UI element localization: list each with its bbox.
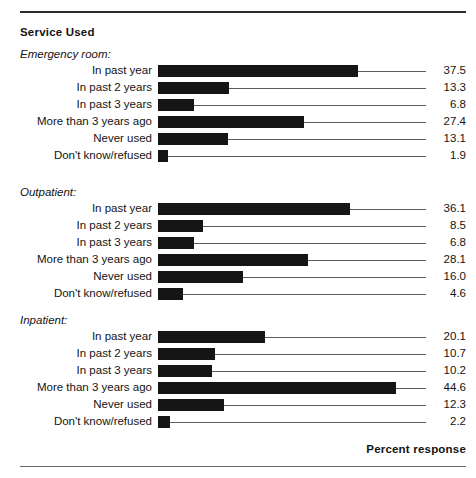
chart-row: In past 3 years10.2 (0, 363, 476, 380)
bar (158, 348, 215, 360)
row-category-label: Don't know/refused (0, 287, 152, 300)
chart-row: Don't know/refused2.2 (0, 414, 476, 431)
chart-row: In past year36.1 (0, 201, 476, 218)
bar-value-label: 16.0 (430, 270, 466, 283)
bar-track (158, 269, 426, 286)
row-category-label: In past year (0, 202, 152, 215)
bar-track (158, 148, 426, 165)
chart-row: In past 2 years8.5 (0, 218, 476, 235)
row-category-label: Don't know/refused (0, 415, 152, 428)
leader-line (158, 105, 426, 106)
row-category-label: Never used (0, 398, 152, 411)
page-title: Service Used (20, 26, 95, 38)
bar-track (158, 201, 426, 218)
bar (158, 150, 168, 162)
row-category-label: In past 2 years (0, 347, 152, 360)
bar (158, 365, 212, 377)
x-axis-title: Percent response (366, 443, 466, 455)
bar-track (158, 218, 426, 235)
row-category-label: More than 3 years ago (0, 381, 152, 394)
bar (158, 382, 396, 394)
bar-track (158, 380, 426, 397)
bar-value-label: 20.1 (430, 330, 466, 343)
bar-value-label: 13.3 (430, 81, 466, 94)
row-category-label: In past 3 years (0, 98, 152, 111)
bar-value-label: 44.6 (430, 381, 466, 394)
bar-track (158, 252, 426, 269)
top-divider-rule (20, 11, 466, 13)
bar-track (158, 346, 426, 363)
chart-row: More than 3 years ago44.6 (0, 380, 476, 397)
chart-row: Don't know/refused4.6 (0, 286, 476, 303)
bar-track (158, 80, 426, 97)
chart-row: In past year37.5 (0, 63, 476, 80)
chart-row: Never used16.0 (0, 269, 476, 286)
bar-value-label: 13.1 (430, 132, 466, 145)
bar (158, 99, 194, 111)
leader-line (158, 156, 426, 157)
bar (158, 133, 228, 145)
bar-value-label: 6.8 (430, 98, 466, 111)
chart-row: More than 3 years ago28.1 (0, 252, 476, 269)
bar (158, 254, 308, 266)
leader-line (158, 294, 426, 295)
row-category-label: More than 3 years ago (0, 253, 152, 266)
group-label: Emergency room: (20, 48, 111, 60)
bar (158, 203, 350, 215)
bar-value-label: 36.1 (430, 202, 466, 215)
row-category-label: Never used (0, 132, 152, 145)
bar-track (158, 363, 426, 380)
row-category-label: In past year (0, 330, 152, 343)
bar-track (158, 114, 426, 131)
bar-value-label: 28.1 (430, 253, 466, 266)
row-category-label: In past 3 years (0, 364, 152, 377)
bar-track (158, 97, 426, 114)
bar-value-label: 27.4 (430, 115, 466, 128)
bar-value-label: 2.2 (430, 415, 466, 428)
bar (158, 82, 229, 94)
chart-row: More than 3 years ago27.4 (0, 114, 476, 131)
row-category-label: In past 3 years (0, 236, 152, 249)
bar-value-label: 37.5 (430, 64, 466, 77)
chart-row: In past 2 years13.3 (0, 80, 476, 97)
bar-value-label: 6.8 (430, 236, 466, 249)
chart-row: In past 3 years6.8 (0, 235, 476, 252)
bar-track (158, 414, 426, 431)
bar-value-label: 10.2 (430, 364, 466, 377)
bar (158, 271, 243, 283)
chart-row: In past year20.1 (0, 329, 476, 346)
bar (158, 399, 224, 411)
leader-line (158, 243, 426, 244)
bar-value-label: 10.7 (430, 347, 466, 360)
row-category-label: Never used (0, 270, 152, 283)
bar-chart-figure: Service Used Emergency room:In past year… (0, 0, 476, 478)
chart-row: Never used12.3 (0, 397, 476, 414)
chart-row: Don't know/refused1.9 (0, 148, 476, 165)
bar-value-label: 8.5 (430, 219, 466, 232)
row-category-label: In past 2 years (0, 81, 152, 94)
bar-value-label: 12.3 (430, 398, 466, 411)
row-category-label: In past year (0, 64, 152, 77)
bar-track (158, 329, 426, 346)
chart-row: Never used13.1 (0, 131, 476, 148)
bar (158, 116, 304, 128)
bar-track (158, 397, 426, 414)
bar (158, 331, 265, 343)
bar (158, 237, 194, 249)
bar-track (158, 63, 426, 80)
bar (158, 288, 183, 300)
chart-row: In past 2 years10.7 (0, 346, 476, 363)
bar-value-label: 1.9 (430, 149, 466, 162)
row-category-label: In past 2 years (0, 219, 152, 232)
row-category-label: Don't know/refused (0, 149, 152, 162)
bar (158, 220, 203, 232)
bar-value-label: 4.6 (430, 287, 466, 300)
group-label: Inpatient: (20, 314, 67, 326)
bar (158, 416, 170, 428)
chart-row: In past 3 years6.8 (0, 97, 476, 114)
bar (158, 65, 358, 77)
bar-track (158, 131, 426, 148)
bar-track (158, 235, 426, 252)
leader-line (158, 422, 426, 423)
row-category-label: More than 3 years ago (0, 115, 152, 128)
